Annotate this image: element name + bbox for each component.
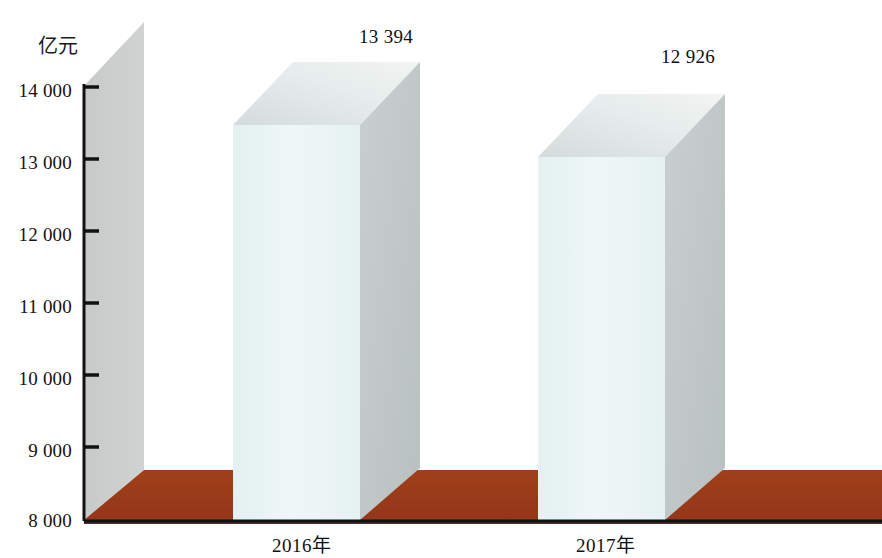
y-tick-label-13000: 13 000 bbox=[0, 152, 72, 174]
y-tick-label-10000: 10 000 bbox=[0, 368, 72, 390]
bar-2017-side bbox=[665, 94, 725, 520]
bar-2016-front bbox=[233, 125, 360, 520]
y-tick-label-12000: 12 000 bbox=[0, 224, 72, 246]
y-tick-label-8000: 8 000 bbox=[0, 510, 72, 532]
chart-floor bbox=[84, 470, 882, 524]
chart-canvas bbox=[0, 0, 882, 558]
bar-2016[interactable] bbox=[233, 62, 420, 520]
y-tick-label-9000: 9 000 bbox=[0, 440, 72, 462]
category-label-2016: 2016年 bbox=[272, 530, 332, 557]
y-axis-unit-label: 亿元 bbox=[38, 30, 78, 59]
bar-2017[interactable] bbox=[538, 94, 725, 520]
bar-2017-front bbox=[538, 157, 665, 520]
y-tick-label-14000: 14 000 bbox=[0, 80, 72, 102]
bar-2016-side bbox=[360, 62, 420, 520]
bar-value-label-2016: 13 394 bbox=[359, 26, 413, 48]
category-label-2017: 2017年 bbox=[576, 530, 636, 557]
bar-value-label-2017: 12 926 bbox=[661, 46, 715, 68]
y-tick-label-11000: 11 000 bbox=[0, 296, 72, 318]
bar-chart-3d: 亿元 14 000 13 000 12 000 11 000 10 000 9 … bbox=[0, 0, 882, 558]
